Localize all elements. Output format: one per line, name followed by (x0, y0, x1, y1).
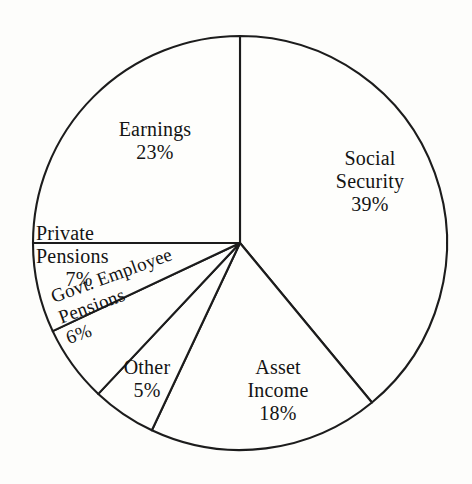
slice-label-line: Social (310, 147, 430, 170)
slice-label-line: Asset (219, 356, 337, 379)
slice-label-social-security: Social Security 39% (310, 147, 430, 215)
pie-chart-figure: Social Security 39% Earnings 23% Private… (0, 0, 472, 484)
slice-percent: 18% (219, 402, 337, 425)
slice-percent: 23% (92, 141, 218, 164)
slice-label-earnings: Earnings 23% (92, 118, 218, 164)
slice-label-line: Other (101, 356, 193, 379)
slice-percent: 5% (101, 379, 193, 402)
slice-label-line: Income (219, 379, 337, 402)
slice-percent: 39% (310, 193, 430, 216)
slice-label-line: Earnings (92, 118, 218, 141)
slice-label-asset-income: Asset Income 18% (219, 356, 337, 424)
slice-label-line: Private (36, 222, 154, 245)
slice-label-line: Security (310, 170, 430, 193)
slice-label-other: Other 5% (101, 356, 193, 402)
